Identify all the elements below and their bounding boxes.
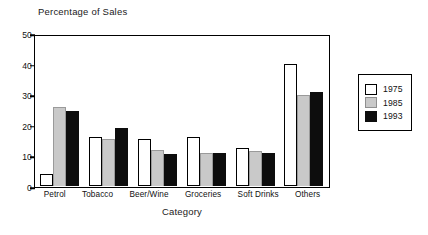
bar-1975-groceries[interactable]: [187, 137, 200, 186]
bar-1993-tobacco[interactable]: [115, 128, 128, 186]
bar-1985-groceries[interactable]: [200, 153, 213, 187]
legend-label: 1975: [383, 84, 403, 94]
category-label: Petrol: [44, 190, 66, 199]
bar-1985-others[interactable]: [297, 95, 310, 187]
chart-container: Percentage of Sales 01020304050 PetrolTo…: [0, 0, 428, 235]
bar-1985-soft-drinks[interactable]: [249, 151, 262, 186]
legend-swatch-icon: [365, 97, 377, 108]
legend-item-1985[interactable]: 1985: [365, 97, 403, 108]
bar-1985-beer-wine[interactable]: [151, 150, 164, 187]
bar-1975-soft-drinks[interactable]: [236, 148, 249, 186]
bar-group: [89, 37, 128, 187]
x-axis-title: Category: [34, 206, 330, 217]
category-label: Soft Drinks: [238, 190, 279, 199]
legend-label: 1993: [383, 111, 403, 121]
category-axis-labels: PetrolTobaccoBeer/WineGroceriesSoft Drin…: [36, 190, 329, 204]
bar-1985-tobacco[interactable]: [102, 139, 115, 186]
legend-item-1975[interactable]: 1975: [365, 84, 403, 95]
bar-groups: [36, 37, 329, 187]
legend-swatch-icon: [365, 111, 377, 122]
bar-group: [40, 37, 79, 187]
bar-1993-petrol[interactable]: [66, 111, 79, 186]
legend-label: 1985: [383, 98, 403, 108]
bar-1975-tobacco[interactable]: [89, 137, 102, 186]
category-label: Groceries: [185, 190, 221, 199]
legend-item-1993[interactable]: 1993: [365, 111, 403, 122]
bar-1975-beer-wine[interactable]: [138, 139, 151, 186]
bar-1993-groceries[interactable]: [213, 153, 226, 187]
bar-group: [284, 37, 323, 187]
category-label: Tobacco: [82, 190, 113, 199]
bar-group: [236, 37, 275, 187]
bar-1993-soft-drinks[interactable]: [262, 153, 275, 187]
bar-group: [138, 37, 177, 187]
bar-1985-petrol[interactable]: [53, 107, 66, 187]
category-label: Others: [295, 190, 320, 199]
bar-1993-beer-wine[interactable]: [164, 154, 177, 186]
legend-swatch-icon: [365, 84, 377, 95]
chart-title: Percentage of Sales: [38, 6, 127, 17]
bar-1975-petrol[interactable]: [40, 174, 53, 186]
y-axis: 01020304050: [0, 0, 34, 235]
category-label: Beer/Wine: [130, 190, 169, 199]
bar-1993-others[interactable]: [310, 92, 323, 187]
bar-group: [187, 37, 226, 187]
legend: 197519851993: [358, 74, 412, 131]
bar-1975-others[interactable]: [284, 64, 297, 186]
